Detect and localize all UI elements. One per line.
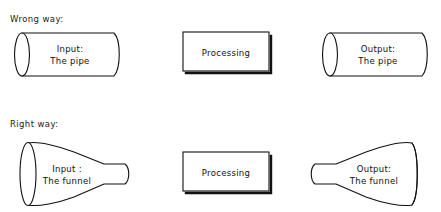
input-pipe-line1: Input: [57,44,84,54]
output-pipe-line2: The pipe [357,56,397,66]
processing-bottom-label: Processing [202,168,250,178]
shape-output-funnel: Output: The funnel [311,143,417,206]
shape-output-pipe: Output: The pipe [323,33,428,76]
input-funnel-line2: The funnel [42,176,91,186]
pipe-vs-funnel-diagram: Wrong way: Input: The pipe Processing Ou… [0,0,441,212]
row-label-right-way: Right way: [10,119,59,129]
input-funnel-line1: Input : [52,164,82,174]
row-label-wrong-way: Wrong way: [10,14,63,24]
output-funnel-line1: Output: [357,164,392,174]
shape-input-funnel: Input : The funnel [20,143,129,206]
shape-processing-top: Processing [183,32,271,73]
processing-top-label: Processing [202,48,250,58]
shape-processing-bottom: Processing [183,152,271,193]
output-pipe-line1: Output: [361,44,396,54]
output-funnel-line2: The funnel [349,176,398,186]
shape-input-pipe: Input: The pipe [15,33,120,76]
input-pipe-line2: The pipe [49,56,89,66]
